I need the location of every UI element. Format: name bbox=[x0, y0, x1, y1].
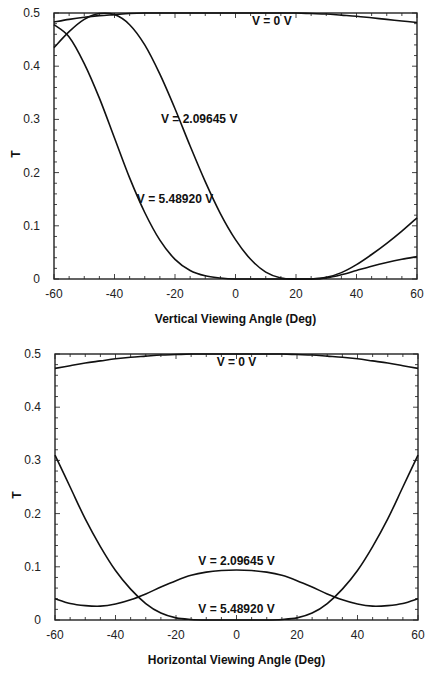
x-axis-title: Horizontal Viewing Angle (Deg) bbox=[148, 653, 325, 667]
x-tick-label: -20 bbox=[167, 628, 185, 642]
x-tick-label: -40 bbox=[106, 287, 124, 301]
y-tick-label: 0.5 bbox=[23, 6, 40, 20]
series-label: V = 5.48920 V bbox=[137, 192, 213, 206]
x-tick-label: 60 bbox=[410, 287, 424, 301]
y-tick-label: 0.5 bbox=[24, 347, 41, 361]
series-line bbox=[55, 455, 418, 620]
x-axis-title: Vertical Viewing Angle (Deg) bbox=[155, 312, 316, 326]
y-tick-label: 0.2 bbox=[23, 166, 40, 180]
series-label: V = 0 V bbox=[217, 355, 257, 369]
x-tick-label: -60 bbox=[45, 287, 63, 301]
x-tick-label: 20 bbox=[289, 287, 303, 301]
y-tick-label: 0.4 bbox=[23, 59, 40, 73]
y-axis-title: T bbox=[9, 150, 23, 158]
y-tick-label: 0 bbox=[34, 613, 41, 627]
x-tick-label: 0 bbox=[233, 628, 240, 642]
x-tick-label: 40 bbox=[350, 287, 364, 301]
horizontal-viewing-angle-chart: -60-40-20020406000.10.20.30.40.5Horizont… bbox=[0, 330, 437, 674]
y-tick-label: 0.1 bbox=[23, 219, 40, 233]
series-label: V = 5.48920 V bbox=[198, 602, 274, 616]
chart-canvas: -60-40-20020406000.10.20.30.40.5Vertical… bbox=[0, 0, 437, 330]
chart-canvas: -60-40-20020406000.10.20.30.40.5Horizont… bbox=[0, 330, 437, 674]
y-tick-label: 0 bbox=[33, 272, 40, 286]
series-label: V = 2.09645 V bbox=[198, 554, 274, 568]
series-label: V = 2.09645 V bbox=[161, 112, 237, 126]
series-line bbox=[54, 13, 417, 279]
series-label: V = 0 V bbox=[252, 14, 292, 28]
x-tick-label: 20 bbox=[290, 628, 304, 642]
y-axis-title: T bbox=[10, 491, 24, 499]
x-tick-label: -20 bbox=[166, 287, 184, 301]
series-line bbox=[55, 570, 418, 606]
x-tick-label: 60 bbox=[411, 628, 425, 642]
vertical-viewing-angle-chart: -60-40-20020406000.10.20.30.40.5Vertical… bbox=[0, 0, 437, 330]
x-tick-label: -60 bbox=[46, 628, 64, 642]
x-tick-label: 0 bbox=[232, 287, 239, 301]
x-tick-label: -40 bbox=[107, 628, 125, 642]
y-tick-label: 0.4 bbox=[24, 400, 41, 414]
y-tick-label: 0.1 bbox=[24, 560, 41, 574]
y-tick-label: 0.3 bbox=[23, 112, 40, 126]
y-tick-label: 0.2 bbox=[24, 507, 41, 521]
plot-frame bbox=[55, 354, 418, 620]
y-tick-label: 0.3 bbox=[24, 453, 41, 467]
x-tick-label: 40 bbox=[351, 628, 365, 642]
